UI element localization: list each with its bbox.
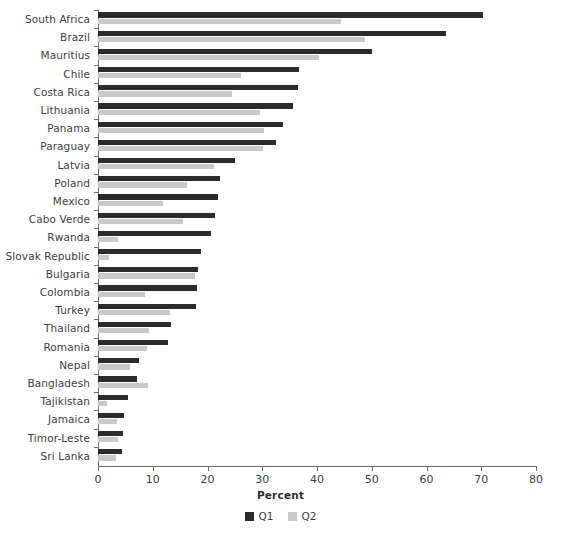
category-label: Rwanda [47, 231, 90, 243]
y-axis-tick [94, 265, 98, 266]
y-axis-tick [94, 83, 98, 84]
category-label: Romania [43, 341, 90, 353]
chart-row: Romania [98, 338, 536, 356]
category-label: Mexico [53, 195, 90, 207]
y-axis-tick [94, 10, 98, 11]
bar-q1 [98, 231, 211, 236]
category-label: Brazil [60, 31, 90, 43]
bar-q1 [98, 12, 483, 17]
bar-q2 [98, 310, 170, 315]
y-axis-tick [94, 137, 98, 138]
legend-swatch-icon [288, 512, 297, 521]
chart-row: Timor-Leste [98, 429, 536, 447]
y-axis-tick [94, 46, 98, 47]
bar-q1 [98, 395, 128, 400]
category-label: Latvia [57, 159, 90, 171]
bar-q2 [98, 182, 187, 187]
chart-row: Paraguay [98, 137, 536, 155]
category-label: Paraguay [40, 140, 90, 152]
y-axis-tick [94, 119, 98, 120]
bar-q1 [98, 103, 293, 108]
x-axis-tick-label: 80 [529, 473, 543, 486]
y-axis-tick [94, 410, 98, 411]
category-label: Bangladesh [27, 377, 90, 389]
category-label: Sri Lanka [41, 450, 90, 462]
y-axis-tick [94, 174, 98, 175]
y-axis-tick [94, 156, 98, 157]
bar-q1 [98, 413, 124, 418]
y-axis-tick [94, 392, 98, 393]
y-axis-tick [94, 283, 98, 284]
bar-q2 [98, 455, 116, 460]
bar-q2 [98, 37, 365, 42]
x-axis-tick-label: 0 [95, 473, 102, 486]
bar-q2 [98, 419, 117, 424]
category-label: Mauritius [41, 49, 90, 61]
bar-q1 [98, 249, 201, 254]
category-label: Tajikistan [40, 395, 90, 407]
x-axis-tick [427, 466, 428, 471]
x-axis-tick-label: 30 [255, 473, 269, 486]
y-axis-tick [94, 338, 98, 339]
legend-item-q2[interactable]: Q2 [288, 510, 317, 522]
bar-q2 [98, 364, 130, 369]
chart-row: Lithuania [98, 101, 536, 119]
category-label: Cabo Verde [29, 213, 90, 225]
bar-q1 [98, 122, 283, 127]
y-axis-tick [94, 247, 98, 248]
category-label: Poland [54, 177, 90, 189]
x-axis-tick [153, 466, 154, 471]
x-axis-title: Percent [0, 489, 561, 501]
chart-row: Bulgaria [98, 265, 536, 283]
plot-area: South AfricaBrazilMauritiusChileCosta Ri… [98, 10, 536, 465]
y-axis-tick [94, 101, 98, 102]
category-label: Jamaica [48, 413, 90, 425]
chart-row: Tajikistan [98, 392, 536, 410]
legend-item-q1[interactable]: Q1 [245, 510, 274, 522]
category-label: Bulgaria [46, 268, 90, 280]
category-label: Thailand [44, 322, 90, 334]
x-axis-tick-label: 70 [474, 473, 488, 486]
bar-q1 [98, 285, 197, 290]
legend-swatch-icon [245, 512, 254, 521]
y-axis-tick [94, 356, 98, 357]
bar-q2 [98, 201, 163, 206]
y-axis-tick [94, 228, 98, 229]
chart-row: Jamaica [98, 410, 536, 428]
bar-q2 [98, 219, 183, 224]
category-label: South Africa [25, 13, 90, 25]
legend-label: Q2 [302, 510, 317, 522]
category-label: Nepal [59, 359, 90, 371]
bar-q2 [98, 437, 118, 442]
chart-row: South Africa [98, 10, 536, 28]
chart-row: Mexico [98, 192, 536, 210]
category-label: Costa Rica [33, 86, 90, 98]
x-axis-tick-label: 20 [201, 473, 215, 486]
bar-q1 [98, 85, 298, 90]
bar-q1 [98, 213, 215, 218]
x-axis-tick [481, 466, 482, 471]
bar-q2 [98, 73, 241, 78]
category-label: Colombia [40, 286, 90, 298]
chart-row: Slovak Republic [98, 247, 536, 265]
x-axis-tick [262, 466, 263, 471]
y-axis-tick [94, 374, 98, 375]
chart-row: Nepal [98, 356, 536, 374]
bar-q2 [98, 237, 118, 242]
bar-q2 [98, 401, 107, 406]
bar-q1 [98, 340, 168, 345]
bar-q1 [98, 358, 139, 363]
horizontal-bar-chart: South AfricaBrazilMauritiusChileCosta Ri… [0, 0, 561, 536]
legend-label: Q1 [259, 510, 274, 522]
y-axis-tick [94, 319, 98, 320]
chart-row: Bangladesh [98, 374, 536, 392]
x-axis-tick [536, 466, 537, 471]
category-label: Chile [63, 68, 90, 80]
chart-row: Costa Rica [98, 83, 536, 101]
bar-q1 [98, 449, 122, 454]
bar-q2 [98, 164, 214, 169]
bar-q1 [98, 431, 123, 436]
x-axis-tick-label: 40 [310, 473, 324, 486]
chart-row: Sri Lanka [98, 447, 536, 465]
bar-q1 [98, 158, 235, 163]
